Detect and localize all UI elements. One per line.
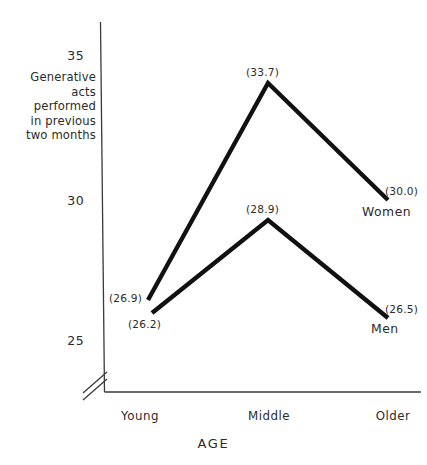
y-axis-label: Generative acts performed in previous tw… (4, 70, 96, 143)
point-label-men-older: (26.5) (385, 303, 418, 315)
y-tick-label-35: 35 (40, 48, 84, 63)
x-tick-label-young: Young (95, 409, 185, 423)
axis-break-icon (83, 372, 107, 400)
y-axis (101, 22, 105, 392)
series-label-men: Men (371, 321, 399, 336)
line-chart: 35 30 25 Generative acts performed in pr… (0, 0, 427, 465)
x-tick-label-older: Older (348, 409, 427, 423)
series-line-women (148, 83, 388, 300)
x-tick-label-middle: Middle (224, 409, 314, 423)
x-axis-label: AGE (0, 436, 427, 451)
y-tick-label-30: 30 (40, 193, 84, 208)
point-label-women-middle: (33.7) (246, 66, 279, 78)
point-label-men-young: (26.2) (128, 318, 161, 330)
y-tick-label-25: 25 (40, 333, 84, 348)
point-label-men-middle: (28.9) (246, 203, 279, 215)
series-label-women: Women (362, 204, 411, 219)
series-line-men (152, 220, 388, 318)
point-label-women-young: (26.9) (109, 292, 142, 304)
point-label-women-older: (30.0) (385, 185, 418, 197)
